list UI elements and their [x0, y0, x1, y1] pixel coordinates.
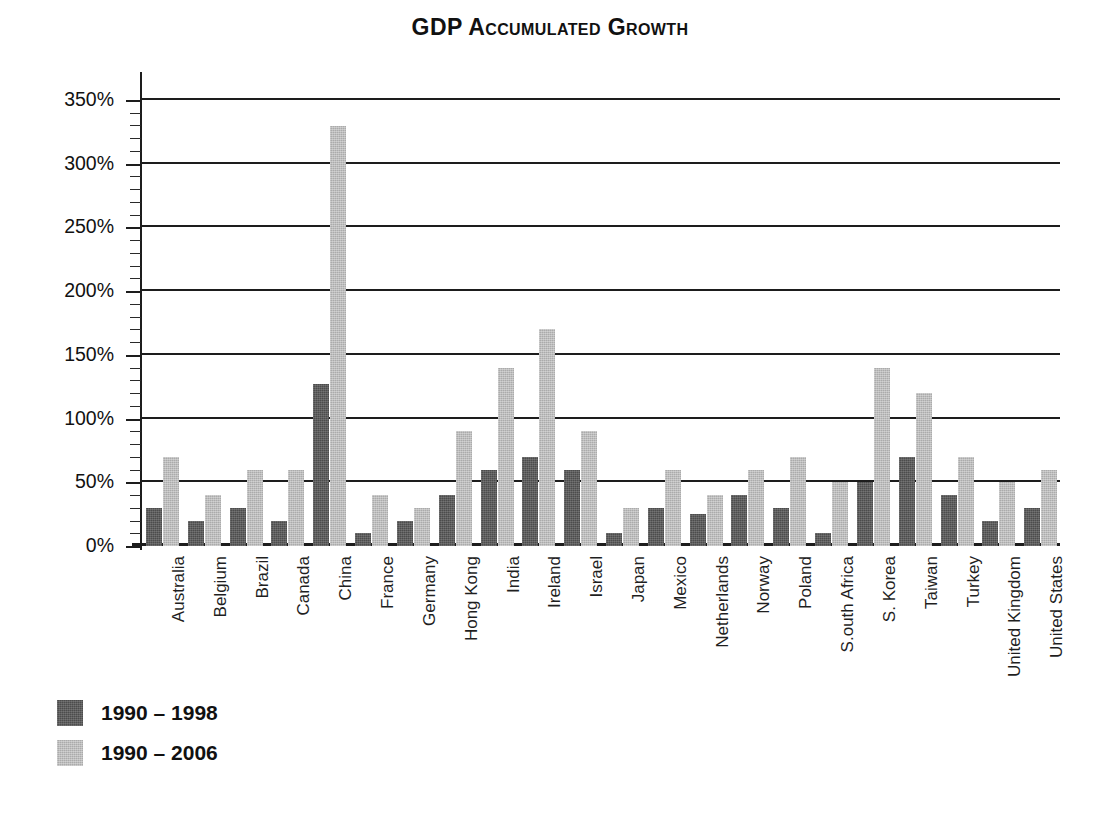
bar-group [648, 100, 681, 546]
y-axis-tick-major [126, 482, 141, 484]
y-axis-tick-label: 200% [28, 279, 114, 302]
y-axis-tick-minor [130, 508, 141, 509]
bar[interactable] [707, 495, 723, 546]
bar[interactable] [832, 482, 848, 546]
x-axis-category-label: Australia [169, 556, 189, 622]
bar[interactable] [899, 457, 915, 546]
bar[interactable] [498, 368, 514, 546]
bar[interactable] [188, 521, 204, 546]
x-axis-tick-label: S.outh Africa [838, 556, 858, 652]
bar[interactable] [522, 457, 538, 546]
bar[interactable] [874, 368, 890, 546]
x-axis-tick-label: Ireland [545, 556, 565, 608]
x-axis-category-label: France [378, 556, 398, 609]
bar-group [606, 100, 639, 546]
bar[interactable] [271, 521, 287, 546]
x-axis-tick-label: Hong Kong [462, 556, 482, 641]
y-axis-tick-minor [130, 176, 141, 177]
bar[interactable] [690, 514, 706, 546]
y-axis-tick-minor [130, 457, 141, 458]
x-axis-category-label: United States [1047, 556, 1067, 658]
x-axis-category-label: Germany [420, 556, 440, 626]
bar[interactable] [857, 482, 873, 546]
x-axis-category-label: India [504, 556, 524, 593]
bar[interactable] [456, 431, 472, 546]
bar[interactable] [230, 508, 246, 546]
bar-group [313, 100, 346, 546]
bar[interactable] [958, 457, 974, 546]
bar[interactable] [288, 470, 304, 546]
bar[interactable] [731, 495, 747, 546]
y-axis-tick-label: 350% [28, 88, 114, 111]
y-axis-tick-major [126, 546, 141, 548]
bar-group [481, 100, 514, 546]
bar[interactable] [941, 495, 957, 546]
bar[interactable] [815, 533, 831, 546]
x-axis-tick-label: United States [1047, 556, 1067, 658]
y-axis-tick-minor [130, 393, 141, 394]
bar[interactable] [146, 508, 162, 546]
x-axis-category-label: S.outh Africa [838, 556, 858, 652]
y-axis-tick-minor [130, 406, 141, 407]
y-axis-tick-minor [130, 470, 141, 471]
bar[interactable] [439, 495, 455, 546]
y-axis-tick-minor [130, 329, 141, 330]
y-axis-tick-major [126, 227, 141, 229]
x-axis-category-label: China [336, 556, 356, 600]
y-axis-tick-minor [130, 253, 141, 254]
bar[interactable] [397, 521, 413, 546]
y-axis-tick-minor [130, 202, 141, 203]
bar[interactable] [539, 329, 555, 546]
x-axis-category-label: Hong Kong [462, 556, 482, 641]
x-axis-tick-label: Netherlands [713, 556, 733, 648]
bar[interactable] [414, 508, 430, 546]
bar[interactable] [982, 521, 998, 546]
bar[interactable] [773, 508, 789, 546]
bar[interactable] [372, 495, 388, 546]
y-axis-tick-minor [130, 266, 141, 267]
legend-item[interactable]: 1990 – 2006 [57, 733, 218, 773]
bar-group [1024, 100, 1057, 546]
bar-group [815, 100, 848, 546]
y-axis-tick-major [126, 164, 141, 166]
bar[interactable] [163, 457, 179, 546]
bar[interactable] [564, 470, 580, 546]
bar[interactable] [355, 533, 371, 546]
x-axis-tick-label: Belgium [211, 556, 231, 617]
bar[interactable] [623, 508, 639, 546]
bar[interactable] [665, 470, 681, 546]
bar[interactable] [606, 533, 622, 546]
y-axis-tick-minor [130, 138, 141, 139]
bar[interactable] [330, 126, 346, 547]
bar-group [564, 100, 597, 546]
y-axis-tick-minor [130, 431, 141, 432]
x-axis-category-label: Mexico [671, 556, 691, 610]
legend-item[interactable]: 1990 – 1998 [57, 693, 218, 733]
bar[interactable] [748, 470, 764, 546]
bar[interactable] [247, 470, 263, 546]
bar[interactable] [1041, 470, 1057, 546]
x-axis-category-label: Israel [587, 556, 607, 598]
bar[interactable] [313, 384, 329, 546]
bar[interactable] [648, 508, 664, 546]
bar-group [982, 100, 1015, 546]
legend-label: 1990 – 1998 [101, 701, 218, 725]
bar-group [271, 100, 304, 546]
y-axis-tick-label: 0% [28, 534, 114, 557]
x-axis-category-label: United Kingdom [1005, 556, 1025, 677]
bar[interactable] [916, 393, 932, 546]
x-axis-tick-label: Taiwan [922, 556, 942, 609]
bar[interactable] [999, 482, 1015, 546]
bar[interactable] [205, 495, 221, 546]
bar-group [941, 100, 974, 546]
y-axis-tick-label: 300% [28, 152, 114, 175]
bar[interactable] [790, 457, 806, 546]
bar-group [773, 100, 806, 546]
bar-group [230, 100, 263, 546]
bar[interactable] [1024, 508, 1040, 546]
bar[interactable] [481, 470, 497, 546]
bar[interactable] [581, 431, 597, 546]
y-axis-tick-minor [130, 317, 141, 318]
y-axis-tick-minor [130, 304, 141, 305]
y-axis-tick-minor [130, 380, 141, 381]
